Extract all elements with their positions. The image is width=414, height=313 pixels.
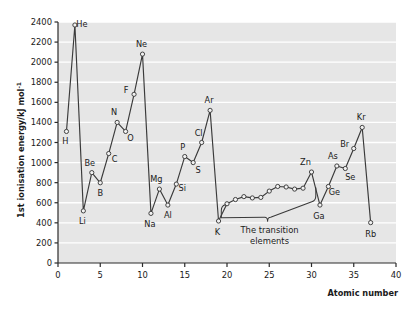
- x-tick-label: 35: [348, 270, 359, 280]
- element-label-al: Al: [164, 210, 172, 220]
- element-label-as: As: [328, 151, 338, 161]
- transition-elements-label-line2: elements: [250, 236, 289, 246]
- y-axis-title: 1st ionisation energy/kJ mol-1: [16, 82, 26, 218]
- element-label-he: He: [76, 19, 87, 29]
- svg-text:1st ionisation energy/kJ mol-1: 1st ionisation energy/kJ mol-1: [16, 82, 26, 218]
- y-tick-label: 400: [36, 218, 52, 228]
- element-label-o: O: [127, 133, 133, 143]
- data-point-marker: [166, 203, 170, 207]
- data-point-marker: [318, 203, 322, 207]
- data-point-marker: [132, 92, 136, 96]
- data-point-marker: [309, 170, 313, 174]
- element-label-n: N: [111, 107, 117, 117]
- element-label-ne: Ne: [136, 39, 147, 49]
- x-tick-label: 20: [222, 270, 233, 280]
- data-point-marker: [208, 108, 212, 112]
- y-tick-label: 1600: [31, 97, 52, 107]
- data-point-marker: [242, 195, 246, 199]
- data-point-marker: [233, 197, 237, 201]
- y-tick-label: 0: [47, 258, 52, 268]
- data-point-marker: [200, 140, 204, 144]
- data-point-marker: [360, 125, 364, 129]
- data-point-marker: [369, 221, 373, 225]
- x-axis-title: Atomic number: [327, 288, 399, 298]
- y-tick-label: 2000: [31, 57, 52, 67]
- element-label-f: F: [124, 85, 129, 95]
- y-tick-label: 200: [36, 238, 52, 248]
- x-tick-label: 40: [391, 270, 402, 280]
- data-point-marker: [343, 166, 347, 170]
- data-point-marker: [157, 187, 161, 191]
- transition-elements-label-line1: The transition: [239, 225, 298, 235]
- x-tick-label: 25: [264, 270, 275, 280]
- x-tick-label: 0: [55, 270, 60, 280]
- element-label-k: K: [215, 227, 221, 237]
- data-point-marker: [90, 171, 94, 175]
- element-label-br: Br: [340, 139, 350, 149]
- y-tick-label: 1800: [31, 77, 52, 87]
- y-tick-label: 1000: [31, 158, 52, 168]
- element-label-li: Li: [79, 216, 86, 226]
- data-point-marker: [115, 120, 119, 124]
- element-label-s: S: [196, 165, 201, 175]
- data-point-marker: [149, 211, 153, 215]
- element-label-kr: Kr: [357, 112, 366, 122]
- element-label-se: Se: [345, 172, 355, 182]
- y-tick-label: 800: [36, 178, 52, 188]
- x-tick-label: 10: [137, 270, 148, 280]
- data-point-marker: [98, 181, 102, 185]
- element-label-rb: Rb: [365, 229, 376, 239]
- data-point-marker: [352, 146, 356, 150]
- element-label-ar: Ar: [205, 95, 215, 105]
- data-point-marker: [276, 184, 280, 188]
- x-tick-label: 30: [306, 270, 317, 280]
- element-label-cl: Cl: [195, 128, 203, 138]
- data-point-marker: [140, 52, 144, 56]
- data-point-marker: [183, 154, 187, 158]
- y-tick-label: 600: [36, 198, 52, 208]
- element-label-b: B: [97, 188, 103, 198]
- y-tick-label: 1200: [31, 138, 52, 148]
- data-point-marker: [335, 164, 339, 168]
- y-tick-label: 1400: [31, 117, 52, 127]
- element-label-na: Na: [144, 219, 155, 229]
- data-point-marker: [216, 219, 220, 223]
- element-label-mg: Mg: [150, 174, 162, 184]
- data-point-marker: [81, 209, 85, 213]
- ionisation-energy-chart: 0200400600800100012001400160018002000220…: [0, 0, 414, 313]
- data-point-marker: [250, 196, 254, 200]
- element-label-si: Si: [179, 183, 186, 193]
- element-label-zn: Zn: [300, 157, 311, 167]
- x-tick-label: 15: [179, 270, 190, 280]
- data-point-marker: [301, 186, 305, 190]
- data-point-marker: [259, 195, 263, 199]
- element-label-ga: Ga: [313, 211, 324, 221]
- y-tick-label: 2200: [31, 37, 52, 47]
- element-label-ge: Ge: [329, 187, 340, 197]
- y-tick-label: 2400: [31, 17, 52, 27]
- data-point-marker: [107, 151, 111, 155]
- x-tick-label: 5: [98, 270, 103, 280]
- data-point-marker: [284, 185, 288, 189]
- data-point-marker: [267, 189, 271, 193]
- element-label-be: Be: [84, 158, 95, 168]
- element-label-h: H: [62, 136, 68, 146]
- data-point-marker: [64, 129, 68, 133]
- element-label-c: C: [112, 154, 118, 164]
- element-label-p: P: [180, 142, 185, 152]
- data-point-marker: [293, 187, 297, 191]
- chart-canvas: 0200400600800100012001400160018002000220…: [0, 0, 414, 313]
